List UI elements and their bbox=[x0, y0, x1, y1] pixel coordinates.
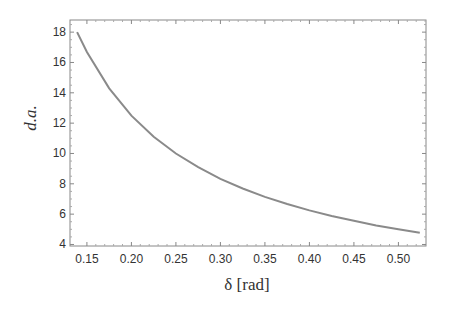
x-tick-label: 0.30 bbox=[209, 252, 233, 266]
x-tick-label: 0.50 bbox=[387, 252, 411, 266]
x-tick-label: 0.40 bbox=[298, 252, 322, 266]
y-tick-label: 12 bbox=[53, 116, 67, 130]
y-tick-label: 16 bbox=[53, 55, 67, 69]
y-axis-ticks: 4681012141618 bbox=[53, 25, 426, 252]
y-tick-label: 14 bbox=[53, 86, 67, 100]
y-tick-label: 18 bbox=[53, 25, 67, 39]
plot-frame bbox=[70, 20, 426, 246]
x-tick-label: 0.45 bbox=[342, 252, 366, 266]
x-axis-label: δ [rad] bbox=[224, 275, 269, 294]
x-tick-label: 0.25 bbox=[164, 252, 188, 266]
y-tick-label: 4 bbox=[59, 237, 66, 251]
x-tick-label: 0.15 bbox=[75, 252, 99, 266]
x-axis-ticks: 0.150.200.250.300.350.400.450.50 bbox=[75, 20, 425, 266]
chart: 0.150.200.250.300.350.400.450.50 4681012… bbox=[0, 0, 449, 309]
y-axis-label: d.a. bbox=[21, 105, 40, 131]
x-tick-label: 0.20 bbox=[120, 252, 144, 266]
data-curve bbox=[77, 32, 420, 233]
y-tick-label: 8 bbox=[59, 177, 66, 191]
x-tick-label: 0.35 bbox=[253, 252, 277, 266]
y-tick-label: 10 bbox=[53, 146, 67, 160]
y-tick-label: 6 bbox=[59, 207, 66, 221]
